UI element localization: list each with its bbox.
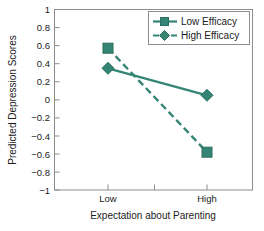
series-low-efficacy bbox=[103, 43, 212, 157]
series-high-efficacy-marker-high bbox=[201, 89, 213, 101]
x-tick-label-high: High bbox=[197, 193, 217, 204]
y-tick-label-neg0.4: −0.4 bbox=[31, 131, 50, 142]
series-low-efficacy-marker-low bbox=[103, 43, 113, 53]
series-high-efficacy-marker-low bbox=[102, 62, 114, 74]
line-chart: 1 0.8 0.6 0.4 0.2 0 −0.2 −0.4 −0.6 −0.8 … bbox=[0, 0, 264, 231]
series-high-efficacy bbox=[102, 62, 213, 101]
y-tick-label-0.4: 0.4 bbox=[37, 58, 50, 69]
y-tick-label-1: 1 bbox=[45, 4, 50, 15]
y-tick-label-neg0.6: −0.6 bbox=[31, 149, 50, 160]
y-tick-label-0: 0 bbox=[45, 94, 50, 105]
y-tick-label-0.6: 0.6 bbox=[37, 40, 50, 51]
y-tick-label-neg0.2: −0.2 bbox=[31, 112, 50, 123]
x-axis-ticks bbox=[108, 185, 207, 191]
y-tick-label-0.8: 0.8 bbox=[37, 22, 50, 33]
series-high-efficacy-line bbox=[108, 68, 207, 95]
legend-label-low-efficacy: Low Efficacy bbox=[181, 16, 237, 27]
chart-legend: Low Efficacy High Efficacy bbox=[149, 12, 250, 45]
series-low-efficacy-marker-high bbox=[202, 147, 212, 157]
legend-entry-high-efficacy[interactable]: High Efficacy bbox=[153, 30, 239, 41]
chart-figure: 1 0.8 0.6 0.4 0.2 0 −0.2 −0.4 −0.6 −0.8 … bbox=[0, 0, 264, 231]
y-tick-label-neg1: −1 bbox=[39, 185, 50, 196]
x-axis-title: Expectation about Parenting bbox=[90, 210, 216, 221]
series-low-efficacy-line bbox=[108, 48, 207, 152]
legend-label-high-efficacy: High Efficacy bbox=[181, 30, 239, 41]
y-axis-ticks bbox=[55, 10, 60, 191]
y-tick-label-neg0.8: −0.8 bbox=[31, 167, 50, 178]
legend-entry-low-efficacy[interactable]: Low Efficacy bbox=[153, 16, 237, 27]
x-tick-label-low: Low bbox=[99, 193, 117, 204]
y-axis-title: Predicted Depression Scores bbox=[7, 35, 18, 165]
legend-square-icon bbox=[161, 18, 169, 26]
y-tick-label-0.2: 0.2 bbox=[37, 76, 50, 87]
